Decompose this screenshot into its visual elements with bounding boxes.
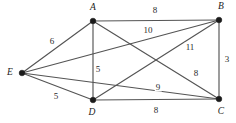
vertex-c <box>216 96 222 102</box>
edge-a-b <box>93 20 219 21</box>
vertex-d <box>90 97 96 103</box>
edge-c-d <box>93 99 219 100</box>
edge-c-e <box>22 73 219 99</box>
edge-weight-b-e: 10 <box>143 26 154 35</box>
edge-weight-b-d: 11 <box>185 43 196 52</box>
graph-diagram-canvas: 858631110895 ABCDE <box>0 0 236 123</box>
vertex-a <box>90 18 96 24</box>
vertex-e <box>19 70 25 76</box>
edge-weight-a-e: 6 <box>49 37 56 46</box>
edge-weight-a-c: 8 <box>193 69 200 78</box>
edge-weight-d-e: 5 <box>53 92 60 101</box>
edge-weight-a-d: 5 <box>95 65 102 74</box>
vertex-b <box>216 17 222 23</box>
edge-weight-c-e: 9 <box>155 83 162 92</box>
edge-weight-b-c: 3 <box>224 55 231 64</box>
edge-a-e <box>22 21 93 73</box>
graph-svg <box>0 0 236 123</box>
edge-weight-c-d: 8 <box>153 106 160 115</box>
vertices-group <box>19 17 222 103</box>
edges-group <box>22 20 219 100</box>
edge-weight-a-b: 8 <box>152 6 159 15</box>
